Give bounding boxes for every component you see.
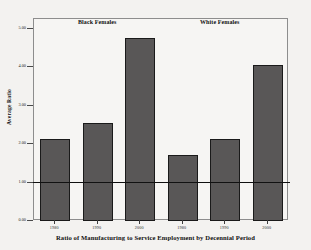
x-tick-label: 1980 (42, 225, 66, 230)
chart-figure: Average Ratio 0.001.002.003.004.005.00 B… (0, 0, 311, 250)
x-tick-label: 2000 (127, 225, 151, 230)
reference-line (33, 182, 290, 184)
x-tick-mark (97, 220, 98, 224)
x-tick-label: 1990 (212, 225, 236, 230)
plot-area (34, 19, 287, 219)
x-tick-label: 1990 (85, 225, 109, 230)
y-tick-label: 0.00 (0, 217, 26, 222)
bar (40, 139, 70, 221)
y-tick-label: 2.00 (0, 140, 26, 145)
group-label-black-females: Black Females (78, 19, 116, 25)
x-tick-mark (267, 220, 268, 224)
y-tick-label: 1.00 (0, 179, 26, 184)
bar (168, 155, 198, 221)
bar (210, 139, 240, 221)
bar (125, 38, 155, 221)
group-label-white-females: White Females (200, 19, 239, 25)
y-tick-label: 5.00 (0, 25, 26, 30)
x-axis-title: Ratio of Manufacturing to Service Employ… (0, 234, 311, 241)
x-tick-mark (54, 220, 55, 224)
bar (83, 123, 113, 221)
y-tick-label: 3.00 (0, 102, 26, 107)
x-tick-mark (182, 220, 183, 224)
x-tick-mark (139, 220, 140, 224)
x-tick-mark (224, 220, 225, 224)
x-tick-label: 1980 (170, 225, 194, 230)
y-tick-label: 4.00 (0, 63, 26, 68)
plot-frame (33, 18, 288, 220)
bar (253, 65, 283, 221)
x-tick-label: 2000 (255, 225, 279, 230)
y-tick-mark (27, 220, 33, 221)
y-axis-title: Average Ratio (6, 77, 12, 137)
